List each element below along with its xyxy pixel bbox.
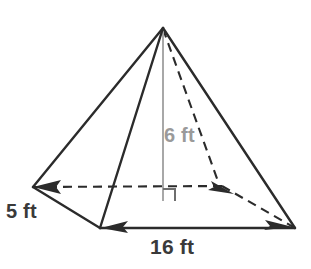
hidden-base-edge-back (33, 186, 222, 187)
pyramid-figure: 6 ft 5 ft 16 ft (0, 0, 311, 269)
base-width-label: 5 ft (6, 200, 37, 223)
base-edge-back-left-front-left (33, 187, 100, 228)
arrowhead-right-icon-back-right (208, 181, 234, 194)
right-angle-marker (163, 189, 175, 201)
hidden-base-edge-right (222, 186, 295, 228)
pyramid-drawing (0, 0, 311, 269)
hidden-lateral-edge-apex-back-right (163, 29, 219, 184)
lateral-edge-apex-front-left (100, 28, 163, 228)
lateral-edge-apex-back-left (33, 28, 163, 187)
height-label: 6 ft (164, 124, 195, 147)
base-length-label: 16 ft (150, 235, 194, 259)
